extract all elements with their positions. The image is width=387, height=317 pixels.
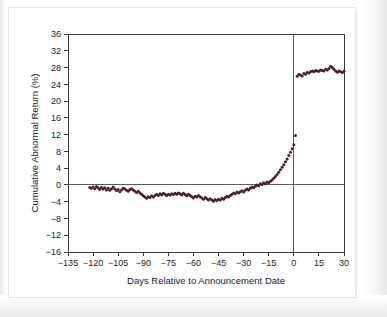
data-point — [301, 74, 304, 77]
reference-lines — [68, 34, 344, 252]
figure-page: −135−120−105−90−75−60−45−30−1501530 −16−… — [0, 0, 387, 317]
x-tick-label: −90 — [136, 258, 151, 268]
y-tick-label: 20 — [51, 96, 61, 106]
x-tick-label: −135 — [58, 258, 78, 268]
x-axis-ticks: −135−120−105−90−75−60−45−30−1501530 — [58, 252, 349, 268]
y-tick-label: 28 — [51, 63, 61, 73]
x-tick-label: −30 — [236, 258, 251, 268]
x-tick-label: −120 — [83, 258, 103, 268]
x-tick-label: −45 — [211, 258, 226, 268]
data-point — [291, 147, 294, 150]
x-axis-title: Days Relative to Announcement Date — [127, 275, 285, 286]
data-point — [287, 154, 290, 157]
data-point — [284, 160, 287, 163]
y-tick-label: −12 — [46, 230, 61, 240]
cumulative-abnormal-return-chart: −135−120−105−90−75−60−45−30−1501530 −16−… — [0, 0, 387, 317]
data-point — [292, 143, 295, 146]
x-tick-label: 0 — [291, 258, 296, 268]
x-tick-label: 30 — [339, 258, 349, 268]
data-point — [282, 163, 285, 166]
y-axis-ticks: −16−12−8−404812162024283236 — [46, 29, 68, 257]
y-tick-label: 4 — [56, 163, 61, 173]
x-tick-label: −15 — [261, 258, 276, 268]
data-point — [279, 168, 282, 171]
data-point — [289, 151, 292, 154]
data-point — [286, 157, 289, 160]
data-points — [88, 65, 345, 203]
y-tick-label: 0 — [56, 180, 61, 190]
x-tick-label: 15 — [314, 258, 324, 268]
y-tick-label: −4 — [51, 197, 61, 207]
data-point — [277, 171, 280, 174]
y-tick-label: −16 — [46, 247, 61, 257]
y-tick-label: 8 — [56, 147, 61, 157]
data-point — [281, 166, 284, 169]
y-tick-label: −8 — [51, 214, 61, 224]
data-point — [294, 134, 297, 137]
data-point — [343, 70, 346, 73]
x-tick-label: −60 — [186, 258, 201, 268]
y-axis-title: Cumulative Abnormal Return (%) — [29, 74, 40, 213]
plot-frame — [68, 34, 344, 252]
y-tick-label: 16 — [51, 113, 61, 123]
axis-titles: Days Relative to Announcement DateCumula… — [29, 74, 285, 286]
x-tick-label: −105 — [108, 258, 128, 268]
y-tick-label: 36 — [51, 29, 61, 39]
x-tick-label: −75 — [161, 258, 176, 268]
y-tick-label: 12 — [51, 130, 61, 140]
y-tick-label: 32 — [51, 46, 61, 56]
y-tick-label: 24 — [51, 80, 61, 90]
